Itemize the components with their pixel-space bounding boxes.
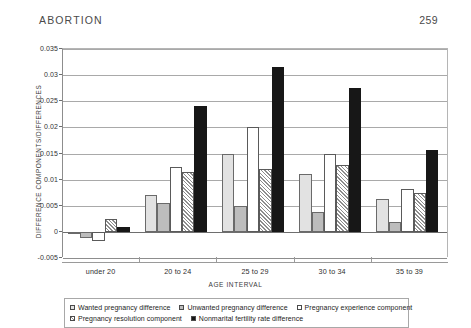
legend-label: Nonmarital fertility rate difference: [199, 315, 303, 322]
bar: [105, 219, 117, 232]
bar: [157, 203, 169, 232]
legend-label: Unwanted pregnancy difference: [187, 304, 287, 311]
y-tick-mark: [59, 126, 62, 127]
bar: [117, 227, 129, 232]
running-head: ABORTION 259: [0, 14, 471, 30]
legend-item[interactable]: Wanted pregnancy difference: [70, 304, 170, 311]
x-tick-label: under 20: [86, 267, 116, 276]
bar: [222, 154, 234, 232]
bar: [272, 67, 284, 232]
plot-area: [62, 48, 448, 257]
y-tick-label: 0: [0, 227, 58, 234]
legend-swatch-icon: [297, 305, 302, 310]
gridline: [63, 49, 447, 50]
y-tick-label: 0.02: [0, 123, 58, 130]
y-tick-mark: [59, 48, 62, 49]
bar: [414, 193, 426, 232]
y-tick-label: -0.005: [0, 254, 58, 261]
bar: [234, 206, 246, 232]
y-tick-mark: [59, 179, 62, 180]
y-tick-mark: [59, 74, 62, 75]
x-tick-mark: [216, 257, 217, 262]
gridline: [63, 258, 447, 259]
gridline: [63, 75, 447, 76]
bar: [170, 167, 182, 232]
y-tick-label: 0.015: [0, 149, 58, 156]
bar: [299, 174, 311, 231]
bar: [182, 172, 194, 232]
chart-legend: Wanted pregnancy differenceUnwanted preg…: [64, 298, 409, 328]
bar: [389, 222, 401, 231]
x-tick-label: 20 to 24: [164, 267, 191, 276]
page-number: 259: [419, 14, 438, 26]
bar: [80, 232, 92, 238]
bar: [324, 154, 336, 232]
y-tick-label: 0.01: [0, 175, 58, 182]
bar: [145, 195, 157, 232]
bar: [68, 232, 80, 234]
y-tick-label: 0.035: [0, 45, 58, 52]
bar: [92, 232, 104, 241]
bar: [426, 150, 438, 232]
figure-bar-chart: DIFFERENCE COMPONENTS/DIFFERENCES 0.0350…: [0, 40, 471, 323]
legend-item[interactable]: Nonmarital fertility rate difference: [191, 315, 303, 322]
y-tick-label: 0.005: [0, 201, 58, 208]
y-tick-mark: [59, 231, 62, 232]
x-axis-title: AGE INTERVAL: [0, 281, 471, 288]
x-tick-label: 35 to 39: [396, 267, 423, 276]
legend-item[interactable]: Unwanted pregnancy difference: [179, 304, 287, 311]
x-axis-line: [62, 262, 448, 263]
legend-swatch-icon: [179, 305, 184, 310]
gridline: [63, 232, 447, 233]
gridline: [63, 101, 447, 102]
y-tick-mark: [59, 205, 62, 206]
y-tick-mark: [59, 100, 62, 101]
legend-label: Wanted pregnancy difference: [78, 304, 170, 311]
x-tick-mark: [294, 257, 295, 262]
y-tick-label: 0.025: [0, 97, 58, 104]
legend-swatch-icon: [70, 316, 75, 321]
x-tick-label: 30 to 34: [319, 267, 346, 276]
legend-row: Wanted pregnancy differenceUnwanted preg…: [70, 302, 404, 313]
bar: [349, 88, 361, 232]
bar: [259, 169, 271, 232]
legend-item[interactable]: Pregnancy experience component: [297, 304, 413, 311]
x-tick-mark: [139, 257, 140, 262]
bar: [336, 165, 348, 232]
y-tick-mark: [59, 257, 62, 258]
bar: [376, 199, 388, 232]
y-tick-mark: [59, 153, 62, 154]
legend-swatch-icon: [191, 316, 196, 321]
bar: [312, 212, 324, 232]
legend-row: Pregnancy resolution componentNonmarital…: [70, 313, 404, 324]
y-tick-label: 0.03: [0, 71, 58, 78]
legend-item[interactable]: Pregnancy resolution component: [70, 315, 182, 322]
legend-label: Pregnancy resolution component: [78, 315, 182, 322]
legend-label: Pregnancy experience component: [305, 304, 413, 311]
x-tick-label: 25 to 29: [241, 267, 268, 276]
bar: [401, 189, 413, 232]
bar: [247, 127, 259, 232]
x-tick-mark: [371, 257, 372, 262]
bar: [194, 106, 206, 231]
legend-swatch-icon: [70, 305, 75, 310]
running-head-title: ABORTION: [39, 14, 103, 26]
